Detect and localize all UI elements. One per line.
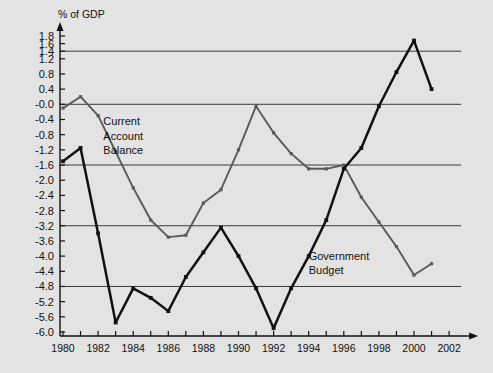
data-point: [307, 167, 310, 170]
x-axis-arrow: [469, 333, 478, 340]
data-point: [61, 107, 64, 110]
x-tick-label-1: 1982: [86, 342, 110, 354]
x-tick-label-4: 1988: [192, 342, 216, 354]
government-budget-label-line-1: Budget: [309, 264, 344, 276]
y-tick-label-9: -1.2: [35, 144, 54, 156]
x-tick-label-2: 1984: [122, 342, 146, 354]
data-point: [237, 254, 241, 258]
data-point: [254, 105, 257, 108]
data-point: [395, 70, 399, 74]
x-tick-label-0: 1980: [51, 342, 75, 354]
y-tick-label-5: 0.4: [39, 83, 54, 95]
data-point: [377, 220, 380, 223]
series-line: [63, 41, 432, 329]
data-point: [202, 201, 205, 204]
x-tick-label-5: 1990: [227, 342, 251, 354]
data-point: [430, 262, 433, 265]
y-tick-label-18: -4.8: [35, 280, 54, 292]
y-tick-label-11: -2.0: [35, 174, 54, 186]
data-point: [324, 218, 328, 222]
data-point: [96, 231, 100, 235]
y-tick-label-17: -4.4: [35, 265, 54, 277]
data-point: [132, 186, 135, 189]
data-point: [272, 131, 275, 134]
data-point: [272, 326, 276, 330]
y-tick-label-14: -3.2: [35, 220, 54, 232]
data-point: [166, 309, 170, 313]
y-tick-label-6: -0.0: [35, 98, 54, 110]
y-tick-label-3: 1.2: [39, 53, 54, 65]
data-point: [219, 226, 223, 230]
data-point: [342, 167, 346, 171]
data-point: [114, 321, 118, 325]
x-tick-label-7: 1994: [297, 342, 321, 354]
x-tick-label-8: 1996: [332, 342, 356, 354]
data-point: [254, 286, 258, 290]
data-point: [360, 196, 363, 199]
y-tick-label-20: -5.6: [35, 311, 54, 323]
x-tick-label-11: 2002: [437, 342, 461, 354]
y-tick-label-13: -2.8: [35, 205, 54, 217]
x-tick-label-10: 2000: [402, 342, 426, 354]
data-point: [202, 250, 206, 254]
data-point: [289, 286, 293, 290]
x-tick-label-6: 1992: [262, 342, 286, 354]
data-point: [167, 236, 170, 239]
data-point: [395, 245, 398, 248]
data-point: [97, 114, 100, 117]
y-tick-label-7: -0.4: [35, 113, 54, 125]
chart-container: 1.81.61.41.20.80.4-0.0-0.4-0.8-1.2-1.6-2…: [0, 0, 493, 373]
data-point: [184, 275, 188, 279]
data-point: [61, 159, 65, 163]
gridlines-layer: [60, 51, 461, 286]
data-point: [237, 148, 240, 151]
y-tick-label-16: -4.0: [35, 250, 54, 262]
data-point: [359, 146, 363, 150]
current-account-label-line-2: Balance: [103, 144, 143, 156]
data-point: [219, 188, 222, 191]
data-point: [412, 39, 416, 43]
x-tick-labels: 1980198219841986198819901992199419961998…: [51, 331, 461, 354]
y-axis-title: % of GDP: [58, 8, 105, 20]
data-point: [149, 296, 153, 300]
y-tick-label-12: -2.4: [35, 189, 54, 201]
y-tick-label-4: 0.8: [39, 68, 54, 80]
data-point: [79, 95, 82, 98]
data-point: [430, 87, 434, 91]
y-tick-label-21: -6.0: [35, 326, 54, 338]
current-account-label-line-0: Current: [103, 115, 140, 127]
data-point: [149, 218, 152, 221]
x-tick-label-9: 1998: [367, 342, 391, 354]
data-point: [412, 273, 415, 276]
data-point: [79, 146, 83, 150]
y-tick-label-8: -0.8: [35, 129, 54, 141]
y-tick-label-19: -5.2: [35, 296, 54, 308]
axes-layer: [57, 22, 479, 340]
y-axis-arrow: [57, 22, 64, 31]
current-account-label-line-1: Account: [103, 130, 143, 142]
y-tick-label-15: -3.6: [35, 235, 54, 247]
data-point: [325, 167, 328, 170]
government-budget-label-line-0: Government: [309, 250, 370, 262]
data-point: [290, 152, 293, 155]
data-point: [377, 104, 381, 108]
data-point: [131, 286, 135, 290]
y-tick-label-10: -1.6: [35, 159, 54, 171]
line-chart: 1.81.61.41.20.80.4-0.0-0.4-0.8-1.2-1.6-2…: [0, 0, 493, 373]
data-point: [184, 234, 187, 237]
x-tick-label-3: 1986: [157, 342, 181, 354]
